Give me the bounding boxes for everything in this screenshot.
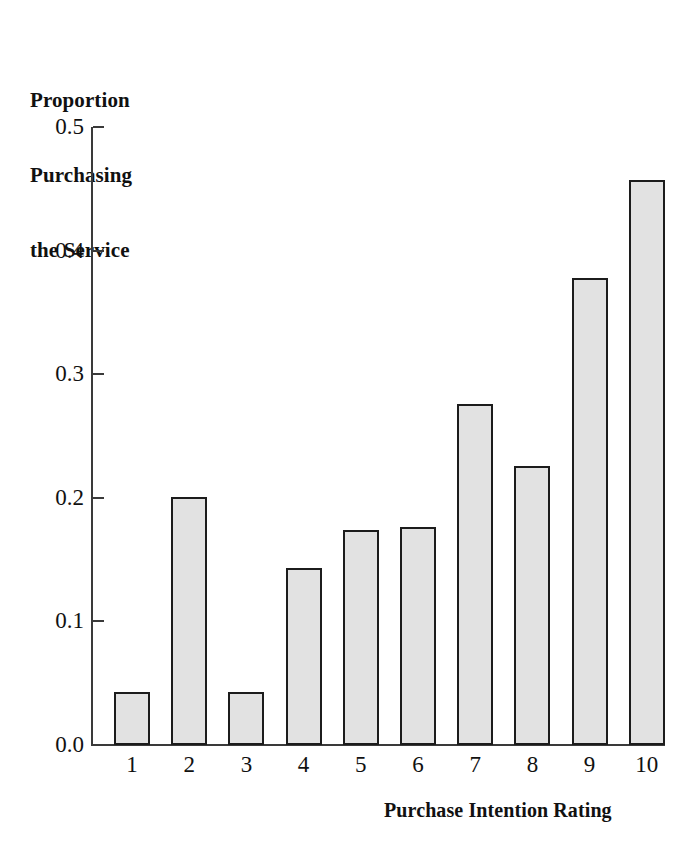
bar [457,404,493,745]
bar-chart: Proportion Purchasing the Service 0.50.4… [0,0,700,856]
x-tick-label: 6 [388,752,448,778]
x-tick-label: 5 [331,752,391,778]
x-tick-label: 4 [274,752,334,778]
y-tick-label: 0.0 [20,733,84,756]
y-tick-label-text: 0.5 [24,115,84,138]
bar [286,568,322,745]
y-tick-label-text: 0.4 [24,239,84,262]
y-tick-label: 0.5 [20,115,84,138]
x-tick-label: 8 [502,752,562,778]
x-axis-title: Purchase Intention Rating [384,799,612,822]
x-tick-label: 1 [102,752,162,778]
y-tick-mark [93,250,104,252]
y-tick-label-text: 0.0 [24,733,84,756]
y-tick-label: 0.4 [20,239,84,262]
y-tick-mark [93,620,104,622]
plot-area: 0.50.40.30.20.10.0 12345678910 [0,0,700,856]
bar [514,466,550,745]
x-tick-label: 2 [159,752,219,778]
bar [114,692,150,745]
y-tick-label-text: 0.1 [24,609,84,632]
y-tick-label: 0.1 [20,609,84,632]
x-tick-label: 10 [617,752,677,778]
y-tick-label: 0.3 [20,362,84,385]
x-tick-label: 9 [560,752,620,778]
y-tick-mark [93,126,104,128]
y-tick-label-text: 0.3 [24,362,84,385]
bar [572,278,608,745]
y-tick-mark [93,373,104,375]
bar [400,527,436,745]
y-tick-label-text: 0.2 [24,486,84,509]
bar [343,530,379,745]
bar [228,692,264,745]
y-tick-mark [93,744,104,746]
bar [171,497,207,745]
y-axis-line [91,127,93,746]
bar [629,180,665,745]
y-tick-label: 0.2 [20,486,84,509]
x-tick-label: 7 [445,752,505,778]
x-tick-label: 3 [216,752,276,778]
y-tick-mark [93,497,104,499]
